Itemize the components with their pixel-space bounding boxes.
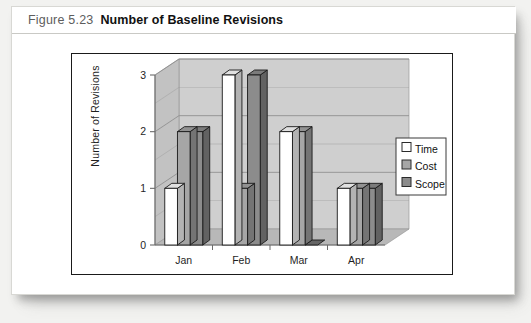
legend-label: Time <box>415 143 438 155</box>
bar-time-apr <box>337 183 357 245</box>
figure-number: Figure 5.23 <box>28 13 93 27</box>
bar-time-jan <box>165 183 185 245</box>
y-axis-tick-label: 0 <box>140 239 146 251</box>
legend-swatch <box>402 178 411 187</box>
book-page-sheet: Figure 5.23 Number of Baseline Revisions… <box>11 6 515 295</box>
bar-chart-plot: 0123JanFebMarAprTimeCostScope <box>72 54 454 276</box>
legend-swatch <box>402 160 411 169</box>
x-axis-category-label: Mar <box>290 254 309 266</box>
bar-time-feb <box>222 70 242 245</box>
page-canvas: Figure 5.23 Number of Baseline Revisions… <box>0 0 531 323</box>
y-axis-tick-label: 2 <box>140 125 146 137</box>
figure-title: Number of Baseline Revisions <box>100 13 283 27</box>
figure-caption-bar: Figure 5.23 Number of Baseline Revisions <box>12 7 516 34</box>
x-axis-category-label: Jan <box>175 254 192 266</box>
legend-swatch <box>402 143 411 152</box>
chart-frame: Number of Revisions 0123JanFebMarAprTime… <box>71 53 453 275</box>
y-axis-tick-label: 3 <box>140 69 146 81</box>
legend-label: Cost <box>415 160 437 172</box>
y-axis-tick-label: 1 <box>140 182 146 194</box>
bar-time-mar <box>280 127 300 245</box>
x-axis-category-label: Feb <box>232 254 250 266</box>
x-axis-category-label: Apr <box>348 254 365 266</box>
legend-label: Scope <box>415 178 445 190</box>
